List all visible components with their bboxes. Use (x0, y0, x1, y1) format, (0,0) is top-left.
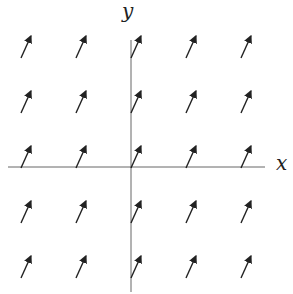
vector-arrow (131, 201, 141, 223)
vector-arrow (241, 36, 251, 58)
vector-arrow (186, 256, 196, 278)
vector-arrow (241, 146, 251, 168)
vector-arrow (21, 91, 31, 113)
vector-arrow (131, 36, 141, 58)
y-axis-label: y (121, 0, 134, 23)
vector-arrow (76, 201, 86, 223)
vector-arrow (76, 36, 86, 58)
vector-arrow (241, 91, 251, 113)
vector-field-diagram: x y (0, 0, 293, 294)
vector-arrow (21, 201, 31, 223)
vector-arrow (21, 36, 31, 58)
vector-arrows (21, 36, 251, 278)
vector-arrow (186, 146, 196, 168)
vector-arrow (186, 91, 196, 113)
vector-arrow (131, 256, 141, 278)
vector-arrow (241, 201, 251, 223)
vector-arrow (21, 256, 31, 278)
vector-arrow (21, 146, 31, 168)
vector-arrow (76, 91, 86, 113)
vector-arrow (186, 201, 196, 223)
vector-arrow (76, 256, 86, 278)
x-axis-label: x (276, 151, 287, 175)
vector-arrow (131, 91, 141, 113)
vector-arrow (76, 146, 86, 168)
vector-arrow (131, 146, 141, 168)
vector-arrow (241, 256, 251, 278)
vector-arrow (186, 36, 196, 58)
